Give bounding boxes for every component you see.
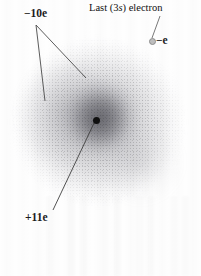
last-electron-caption-suffix: ) electron xyxy=(123,2,163,13)
atom-charge-diagram: −10e Last (3s) electron −e +11e xyxy=(0,0,201,276)
inner-electrons-leader-left-icon xyxy=(36,25,45,101)
inner-electrons-leader-right-icon xyxy=(36,25,86,78)
last-electron-caption-prefix: Last (3 xyxy=(89,2,118,13)
nucleus-charge-leader-icon xyxy=(53,121,95,210)
nucleus-marker-icon xyxy=(93,117,100,124)
last-electron-caption: Last (3s) electron xyxy=(89,3,162,14)
valence-electron-charge-label: −e xyxy=(156,35,168,47)
valence-electron-marker-icon xyxy=(149,38,156,45)
inner-electrons-charge-label: −10e xyxy=(24,8,47,20)
leader-lines-overlay xyxy=(0,0,201,276)
nucleus-charge-label: +11e xyxy=(25,212,48,224)
